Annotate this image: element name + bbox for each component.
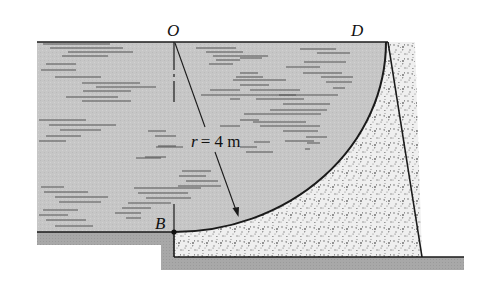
ground-left xyxy=(37,232,174,270)
label-d: D xyxy=(351,22,363,39)
ground-right xyxy=(161,257,464,270)
label-o: O xyxy=(167,22,179,39)
radius-variable: r xyxy=(191,132,198,151)
radius-value: = 4 m xyxy=(201,132,241,151)
point-b-marker xyxy=(171,229,176,234)
radius-label: r= 4 m xyxy=(191,133,240,150)
label-b: B xyxy=(155,215,165,232)
